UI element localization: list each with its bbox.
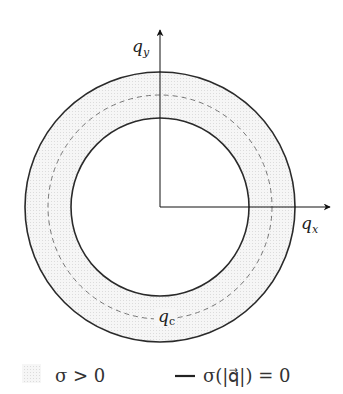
legend: σ > 0 σ(|q⃗|) = 0 — [22, 364, 290, 387]
legend-swatch-shaded — [22, 364, 41, 383]
legend-label-shaded: σ > 0 — [55, 365, 105, 386]
x-axis-label: qx — [301, 213, 319, 236]
y-axis-label: qy — [132, 36, 150, 59]
diagram-canvas: qy qx qc σ > 0 σ(|q⃗|) = 0 — [0, 0, 343, 394]
legend-label-line: σ(|q⃗|) = 0 — [203, 365, 290, 387]
